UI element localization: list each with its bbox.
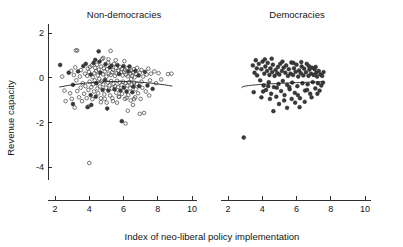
data-point (284, 63, 288, 67)
data-point (313, 86, 317, 90)
data-point (283, 93, 287, 97)
data-point (128, 87, 132, 91)
data-point (266, 84, 270, 88)
data-point (73, 66, 77, 70)
data-point (269, 66, 273, 70)
data-point (259, 95, 263, 99)
data-point (295, 84, 299, 88)
data-point (72, 73, 76, 77)
data-point (268, 97, 272, 101)
y-tick-label: 2 (39, 28, 44, 38)
x-tick-label: 2 (225, 204, 230, 214)
data-point (320, 74, 324, 78)
data-point (131, 90, 135, 94)
data-point (263, 57, 267, 61)
data-point (144, 90, 148, 94)
data-point (95, 63, 99, 67)
data-point (166, 72, 170, 76)
data-point (140, 68, 144, 72)
axes-left (48, 24, 197, 200)
data-point (120, 92, 124, 96)
data-point (141, 75, 145, 79)
x-tick-label: 4 (260, 204, 265, 214)
x-tick-label: 10 (187, 204, 197, 214)
data-point (305, 88, 309, 92)
y-tick-labels: 20-2-4 (36, 28, 44, 172)
data-point (103, 97, 107, 101)
data-point (257, 62, 261, 66)
data-point (107, 89, 111, 93)
data-point (270, 70, 274, 74)
data-point (271, 63, 275, 67)
x-tick-labels-right: 246810 (225, 204, 370, 214)
x-tick-labels-left: 246810 (52, 204, 197, 214)
data-point (89, 103, 93, 107)
data-point (281, 60, 285, 64)
data-point (78, 75, 82, 79)
data-point (83, 72, 87, 76)
data-point (93, 58, 97, 62)
data-point (145, 73, 149, 77)
data-point (140, 80, 144, 84)
data-point (252, 90, 256, 94)
data-point (122, 64, 126, 68)
x-tick-label: 6 (121, 204, 126, 214)
data-point (277, 102, 281, 106)
data-point (122, 86, 126, 90)
data-point (99, 65, 103, 69)
data-point (142, 111, 146, 115)
data-point (94, 95, 98, 99)
data-point (114, 58, 118, 62)
data-point (75, 79, 79, 83)
data-point (287, 85, 291, 89)
x-axis-title: Index of neo-liberal policy implementati… (125, 231, 300, 242)
data-point (73, 106, 77, 110)
data-point (112, 62, 116, 66)
data-point (291, 73, 295, 77)
data-points-democracies (242, 57, 326, 140)
data-point (101, 88, 105, 92)
data-point (255, 74, 259, 78)
data-point (255, 66, 259, 70)
data-point (128, 65, 132, 69)
data-point (147, 94, 151, 98)
data-point (139, 97, 143, 101)
data-point (105, 107, 109, 111)
data-point (314, 65, 318, 69)
scatter-plot: Non-democracies 246810 20-2-4 Democracie… (0, 0, 403, 247)
data-point (96, 92, 100, 96)
panel-non-democracies: Non-democracies 246810 20-2-4 (36, 9, 197, 214)
data-point (147, 67, 151, 71)
data-point (116, 63, 120, 67)
data-point (111, 70, 115, 74)
data-point (307, 64, 311, 68)
data-point (254, 58, 258, 62)
x-tick-label: 4 (87, 204, 92, 214)
data-point (271, 109, 275, 113)
data-point (75, 89, 79, 93)
data-point (296, 75, 300, 79)
data-point (302, 67, 306, 71)
data-point (277, 73, 281, 77)
data-point (125, 90, 129, 94)
y-tick-label: -4 (36, 162, 44, 172)
data-point (261, 90, 265, 94)
axes-right (221, 196, 371, 200)
data-point (60, 75, 64, 79)
figure-container: Non-democracies 246810 20-2-4 Democracie… (0, 0, 403, 247)
data-point (84, 62, 88, 66)
panel-democracies: Democracies 246810 (221, 9, 371, 214)
data-point (259, 67, 263, 71)
x-tick-label: 2 (52, 204, 57, 214)
data-point (136, 92, 140, 96)
data-point (99, 100, 103, 104)
x-tick-label: 8 (328, 204, 333, 214)
data-point (64, 99, 68, 103)
data-point (303, 100, 307, 104)
data-point (85, 74, 89, 78)
data-point (115, 101, 119, 105)
data-point (143, 70, 147, 74)
data-point (109, 49, 113, 53)
data-point (290, 97, 294, 101)
data-point (110, 64, 114, 68)
